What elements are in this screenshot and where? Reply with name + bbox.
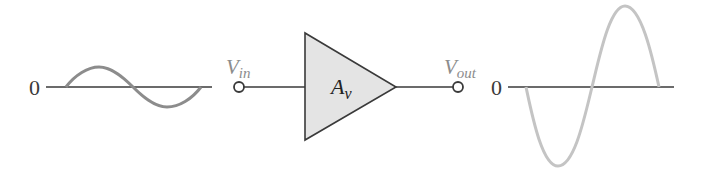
output-waveform: 0 <box>491 6 674 166</box>
output-voltage-subscript: out <box>457 65 477 81</box>
input-zero-label: 0 <box>29 75 40 100</box>
amplifier-diagram: 0 Vin Av Vout 0 <box>0 0 704 173</box>
input-voltage-label: Vin <box>226 55 251 81</box>
gain-subscript: v <box>344 85 352 102</box>
output-zero-label: 0 <box>491 75 502 100</box>
output-voltage-label: Vout <box>444 55 477 81</box>
amplifier: Av <box>305 33 396 140</box>
gain-symbol: A <box>329 74 345 99</box>
output-terminal-node <box>453 82 463 92</box>
input-terminal: Vin <box>226 55 305 92</box>
input-terminal-node <box>234 82 244 92</box>
output-terminal: Vout <box>396 55 477 92</box>
input-voltage-subscript: in <box>239 65 251 81</box>
input-waveform: 0 <box>29 67 212 107</box>
output-sine-wave <box>526 6 659 166</box>
